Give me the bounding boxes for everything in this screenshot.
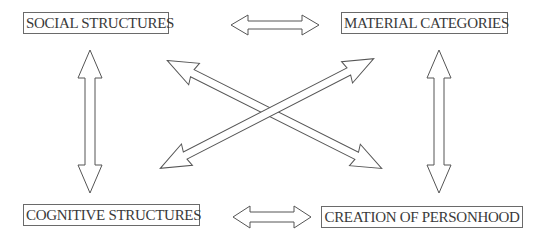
- arrow-social-cognitive: [78, 50, 102, 193]
- node-creation-of-personhood: CREATION OF PERSONHOOD: [321, 206, 523, 228]
- node-social-structures: SOCIAL STRUCTURES: [23, 12, 169, 34]
- arrow-cognitive-personhood: [233, 206, 311, 228]
- arrows-layer: [0, 0, 541, 237]
- node-cognitive-structures: COGNITIVE STRUCTURES: [23, 204, 200, 226]
- node-material-categories: MATERIAL CATEGORIES: [341, 12, 508, 34]
- arrow-material-personhood: [427, 50, 451, 193]
- arrow-social-material: [231, 15, 319, 35]
